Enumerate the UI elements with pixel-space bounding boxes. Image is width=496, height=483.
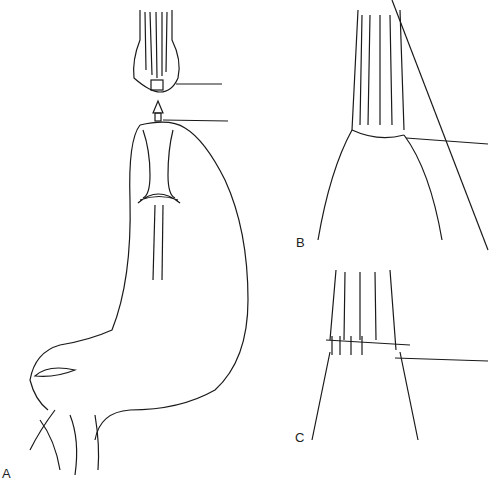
panel-a-stomach — [30, 122, 248, 475]
panel-label-c: C — [295, 430, 304, 445]
panel-label-a: A — [2, 466, 11, 481]
panel-a-spike — [153, 101, 228, 121]
surgical-illustration: A B C — [0, 0, 496, 483]
panel-a-esophagus — [134, 10, 222, 92]
panel-c-hand-sewn — [312, 0, 488, 440]
illustration-drawing — [0, 0, 496, 483]
panel-label-b: B — [296, 235, 305, 250]
panel-b-anastomosis — [318, 10, 488, 240]
